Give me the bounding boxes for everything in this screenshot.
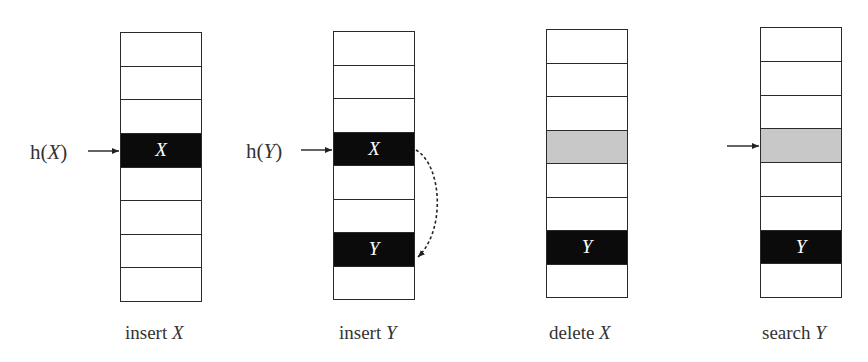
- table-slot-empty: [761, 96, 841, 130]
- table-slot-empty: [334, 267, 414, 300]
- table-slot-filled: Y: [334, 233, 414, 267]
- probe-dashed-arrow-icon: [416, 150, 437, 257]
- table-slot-empty: [121, 33, 201, 67]
- table-slot-empty: [121, 268, 201, 301]
- caption-delete-x: delete X: [549, 322, 611, 344]
- table-slot-filled: X: [334, 133, 414, 167]
- table-slot-empty: [121, 100, 201, 134]
- table-slot-empty: [121, 201, 201, 235]
- table-slot-empty: [761, 62, 841, 96]
- table-slot-empty: [121, 67, 201, 101]
- table-slot-empty: [547, 97, 627, 131]
- table-slot-empty: [547, 30, 627, 64]
- table-slot-empty: [761, 264, 841, 297]
- table-slot-empty: [334, 99, 414, 133]
- hash-table: Y: [760, 27, 842, 298]
- table-slot-deleted: [761, 129, 841, 163]
- hash-table: Y: [546, 29, 628, 298]
- caption-search-y: search Y: [762, 322, 826, 344]
- hash-table: X: [120, 32, 202, 302]
- table-slot-empty: [761, 28, 841, 62]
- hash-label-y: h(Y): [246, 139, 282, 164]
- table-slot-filled: Y: [761, 231, 841, 265]
- table-slot-empty: [334, 32, 414, 66]
- table-slot-empty: [121, 168, 201, 202]
- table-slot-empty: [547, 164, 627, 198]
- table-slot-empty: [334, 66, 414, 100]
- table-slot-filled: X: [121, 134, 201, 168]
- table-slot-empty: [547, 64, 627, 98]
- table-slot-empty: [121, 235, 201, 269]
- table-slot-empty: [547, 265, 627, 298]
- table-slot-empty: [334, 200, 414, 234]
- table-slot-empty: [547, 198, 627, 232]
- table-slot-empty: [761, 163, 841, 197]
- caption-insert-x: insert X: [125, 322, 184, 344]
- table-slot-filled: Y: [547, 231, 627, 265]
- hash-table: X Y: [333, 31, 415, 300]
- table-slot-empty: [334, 166, 414, 200]
- table-slot-deleted: [547, 131, 627, 165]
- table-slot-empty: [761, 197, 841, 231]
- hash-label-x: h(X): [30, 140, 67, 165]
- caption-insert-y: insert Y: [339, 322, 397, 344]
